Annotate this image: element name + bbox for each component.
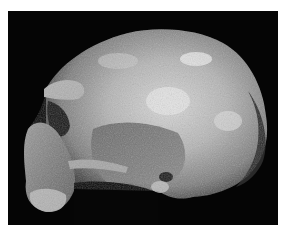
skull-illustration (8, 11, 278, 225)
image-frame (0, 0, 290, 233)
bone-texture (24, 29, 267, 211)
skull-photograph (8, 11, 278, 225)
